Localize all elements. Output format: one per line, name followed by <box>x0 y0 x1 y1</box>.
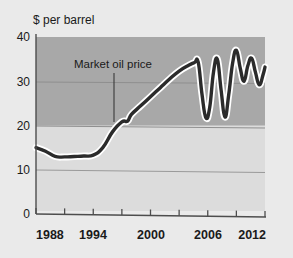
y-tick-label-30: 30 <box>17 75 31 89</box>
x-tick-label-1994: 1994 <box>79 228 107 242</box>
x-tick-label-2000: 2000 <box>137 228 165 242</box>
y-tick-label-10: 10 <box>17 163 31 177</box>
x-tick-label-2006: 2006 <box>194 228 222 242</box>
x-tick-label-1988: 1988 <box>36 228 64 242</box>
oil-price-line-chart: 40 30 20 10 0 $ per barrel 1988 1994 200… <box>0 0 293 258</box>
chart-container: 40 30 20 10 0 $ per barrel 1988 1994 200… <box>0 0 293 258</box>
y-axis-unit-label: $ per barrel <box>33 13 94 27</box>
annotation-label-market-oil-price: Market oil price <box>74 58 152 70</box>
y-tick-label-40: 40 <box>17 30 31 44</box>
x-tick-label-2012: 2012 <box>238 228 266 242</box>
y-tick-label-0: 0 <box>23 207 30 221</box>
y-tick-label-20: 20 <box>17 119 31 133</box>
